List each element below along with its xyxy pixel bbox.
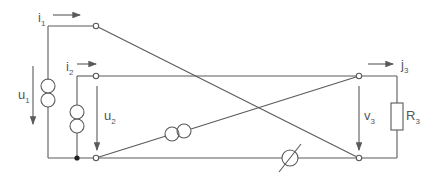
branch-left-2 (70, 76, 93, 158)
circuit-diagram: i1 i2 j3 u1 u2 v3 R3 (0, 0, 434, 181)
diagonal-wire-2a (99, 136, 166, 157)
transformer-diagonal-coil-b (177, 124, 191, 138)
terminal-top-left (93, 23, 98, 28)
resistor-R3 (391, 103, 403, 130)
terminal-mid-left (93, 73, 98, 78)
terminal-top-right (356, 73, 361, 78)
label-R3: R3 (406, 108, 420, 126)
transformer-left-1-coil-a (41, 79, 55, 93)
transformer-left-1-coil-b (41, 93, 55, 107)
transformer-left-2-coil-b (70, 119, 84, 133)
label-v3: v3 (364, 108, 376, 126)
terminal-bottom-left (93, 155, 98, 160)
label-u1: u1 (18, 87, 30, 105)
branch-left-1 (41, 26, 93, 158)
label-u2: u2 (104, 108, 116, 126)
label-i1: i1 (38, 10, 46, 28)
diagonal-wire-1 (99, 28, 356, 157)
transformer-left-2-coil-a (70, 105, 84, 119)
terminal-bottom-right (356, 155, 361, 160)
junction-node (74, 155, 79, 160)
label-i2: i2 (66, 59, 74, 77)
diagonal-wire-2b (191, 77, 356, 129)
label-j3: j3 (400, 57, 409, 75)
